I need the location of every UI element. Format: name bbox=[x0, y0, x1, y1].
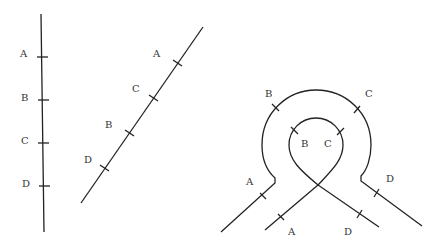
inner-label-d: D bbox=[344, 226, 352, 237]
tick-c bbox=[149, 95, 158, 101]
label-b: B bbox=[105, 119, 112, 130]
diagonal-line bbox=[81, 27, 203, 203]
label-c: C bbox=[132, 83, 140, 94]
tick-a bbox=[173, 60, 182, 66]
vertical-line bbox=[41, 14, 44, 232]
tick-b bbox=[125, 130, 134, 136]
label-c: C bbox=[21, 135, 29, 146]
inner-loop bbox=[265, 118, 379, 230]
inner-label-c: C bbox=[324, 138, 332, 149]
label-a: A bbox=[152, 48, 161, 59]
label-a: A bbox=[19, 48, 28, 59]
outer-label-d: D bbox=[386, 173, 394, 184]
label-d: D bbox=[84, 154, 92, 165]
label-d: D bbox=[22, 178, 30, 189]
diagonal-line-panel: A C B D bbox=[81, 27, 203, 203]
label-b: B bbox=[21, 92, 28, 103]
vertical-line-panel: A B C D bbox=[19, 14, 50, 232]
outer-label-a: A bbox=[245, 176, 254, 187]
outer-label-c: C bbox=[365, 88, 373, 99]
inner-label-a: A bbox=[287, 226, 296, 237]
outer-label-b: B bbox=[265, 88, 272, 99]
inner-label-b: B bbox=[301, 138, 308, 149]
loop-figure-panel: B C A D B C A D bbox=[221, 88, 422, 237]
diagram: A B C D A C B D B C A D B C A D bbox=[0, 0, 440, 243]
outer-curve bbox=[221, 90, 422, 232]
